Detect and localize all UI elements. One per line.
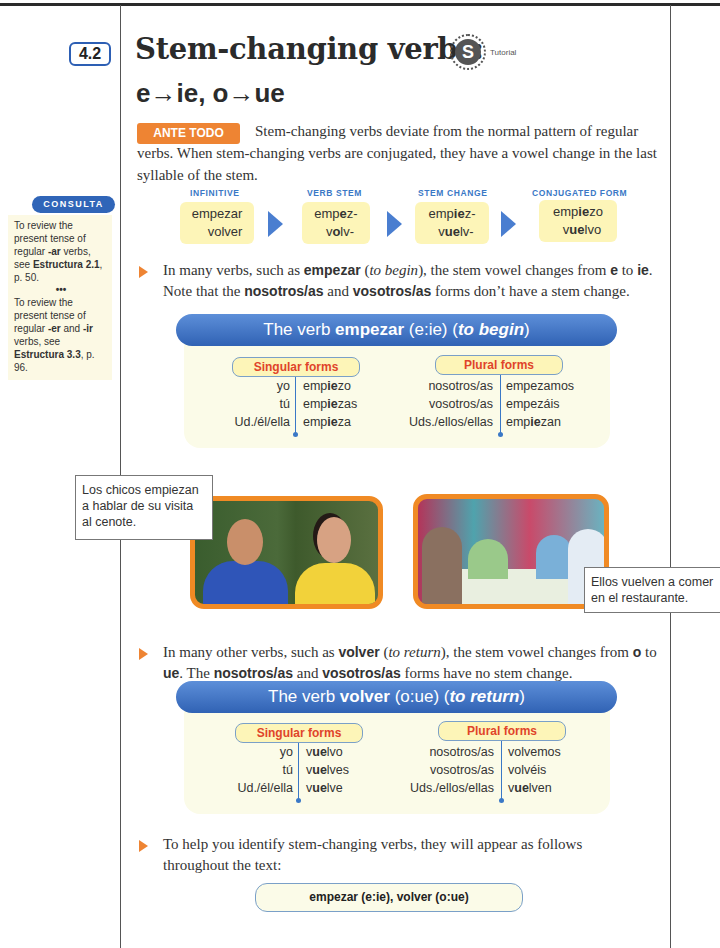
photo-figure-yellow-shirt bbox=[295, 563, 375, 609]
volver-plural-pronouns: nosotros/asvosotros/asUds./ellos/ellas bbox=[386, 743, 494, 797]
volver-singular-divider bbox=[298, 743, 299, 799]
page-title: Stem-changing verbs: bbox=[135, 32, 484, 66]
photo-figure-3 bbox=[536, 535, 572, 579]
flow-header-conjugated: CONJUGATED FORM bbox=[532, 188, 627, 198]
volver-table-banner: The verb volver (o:ue) (to return) bbox=[176, 681, 617, 713]
volver-plural-forms: volvemos volvéis vuelven bbox=[508, 743, 561, 797]
tutorial-link[interactable]: S Tutorial bbox=[450, 34, 516, 70]
flow-header-infinitive: INFINITIVE bbox=[190, 188, 239, 198]
empezar-singular-pronouns: yotúUd./él/ella bbox=[220, 377, 290, 431]
photo-figure-face-right bbox=[317, 517, 351, 563]
section-number-badge: 4.2 bbox=[69, 42, 111, 66]
paragraph-volver: In many other verbs, such as volver (to … bbox=[163, 642, 663, 684]
empezar-plural-pronouns: nosotros/asvosotros/asUds./ellos/ellas bbox=[385, 377, 493, 431]
empezar-plural-label: Plural forms bbox=[435, 355, 563, 375]
empezar-singular-dot bbox=[293, 432, 298, 437]
volver-plural-divider bbox=[501, 741, 502, 799]
photo-two-friends bbox=[190, 496, 383, 609]
flow-arrow-1 bbox=[268, 211, 283, 237]
right-column-rule bbox=[670, 5, 671, 948]
empezar-plural-forms: empezamos empezáis empiezan bbox=[506, 377, 574, 431]
volver-plural-dot bbox=[499, 798, 504, 803]
volver-singular-dot bbox=[296, 798, 301, 803]
photo-figure-face-left bbox=[227, 519, 263, 565]
caption-right: Ellos vuelven a comer en el restaurante. bbox=[584, 567, 720, 613]
page-subtitle: e→ie, o→ue bbox=[136, 78, 285, 109]
empezar-plural-dot bbox=[498, 432, 503, 437]
tutorial-cursor-icon: S bbox=[450, 34, 486, 70]
flow-arrow-2 bbox=[387, 211, 402, 237]
volver-singular-label: Singular forms bbox=[235, 723, 363, 743]
consulta-separator: ••• bbox=[14, 284, 108, 296]
paragraph-empezar: In many verbs, such as empezar (to begin… bbox=[163, 260, 663, 302]
page-top-rule bbox=[0, 3, 720, 6]
paragraph-identify: To help you identify stem-changing verbs… bbox=[163, 834, 643, 876]
empezar-singular-divider bbox=[295, 377, 296, 433]
bullet-arrow-icon bbox=[139, 266, 148, 278]
photo-figure-1 bbox=[422, 527, 462, 607]
ante-todo-badge: ANTE TODO bbox=[137, 123, 240, 144]
volver-singular-forms: vuelvo vuelves vuelve bbox=[306, 743, 349, 797]
flow-header-verb-stem: VERB STEM bbox=[307, 188, 362, 198]
empezar-plural-divider bbox=[500, 375, 501, 433]
consulta-title: CONSULTA bbox=[32, 196, 115, 213]
flow-box-infinitive: empezarvolver bbox=[180, 202, 254, 244]
photo-figure-2 bbox=[468, 539, 508, 579]
example-notation-box: empezar (e:ie), volver (o:ue) bbox=[255, 883, 523, 912]
flow-box-stem: empez- volv- bbox=[302, 202, 370, 244]
consulta-box: To review the present tense of regular -… bbox=[8, 215, 112, 380]
empezar-table-banner: The verb empezar (e:ie) (to begin) bbox=[176, 314, 617, 346]
consulta-note-2: To review the present tense of regular -… bbox=[14, 296, 108, 374]
photo-restaurant bbox=[413, 494, 609, 609]
volver-plural-label: Plural forms bbox=[438, 721, 566, 741]
empezar-singular-label: Singular forms bbox=[232, 357, 360, 377]
bullet-arrow-icon bbox=[139, 648, 148, 660]
consulta-note-1: To review the present tense of regular -… bbox=[14, 219, 108, 284]
bullet-arrow-icon bbox=[139, 840, 148, 852]
flow-box-change: empiez- vuelv- bbox=[415, 202, 489, 244]
empezar-singular-forms: empiezo empiezas empieza bbox=[303, 377, 357, 431]
flow-header-stem-change: STEM CHANGE bbox=[418, 188, 487, 198]
caption-left: Los chicos empiezan a hablar de su visit… bbox=[75, 475, 213, 540]
tutorial-label: Tutorial bbox=[490, 48, 516, 57]
flow-box-conjugated: empiezo vuelvo bbox=[539, 200, 617, 242]
photo-figure-blue-shirt bbox=[203, 561, 288, 609]
flow-arrow-3 bbox=[501, 211, 516, 237]
consulta-sidebar: CONSULTA To review the present tense of … bbox=[8, 196, 112, 380]
volver-singular-pronouns: yotúUd./él/ella bbox=[222, 743, 293, 797]
